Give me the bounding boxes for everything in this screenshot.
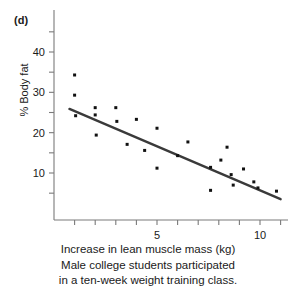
fit-line [69,109,280,199]
data-point [156,167,159,170]
data-point [74,114,77,117]
y-tick-label: 10 [33,167,45,179]
data-point [252,180,255,183]
data-point [73,73,76,76]
x-axis-label: Increase in lean muscle mass (kg) [0,243,296,255]
data-point [186,140,189,143]
data-point [176,154,179,157]
data-point [232,184,235,187]
data-point [115,120,118,123]
data-point [73,94,76,97]
data-points [73,73,278,192]
axes [49,10,288,225]
data-point [275,190,278,193]
x-tick-label: 10 [254,229,266,241]
data-point [230,173,233,176]
data-point [94,113,97,116]
caption-line-1: Male college students participated [0,258,296,273]
data-point [209,166,212,169]
y-tick-label: 30 [33,86,45,98]
data-point [114,106,117,109]
data-point [209,189,212,192]
data-point [226,146,229,149]
data-point [256,186,259,189]
data-point [219,159,222,162]
data-point [126,143,129,146]
scatter-figure: (d) % Body fat 10203040510 Increase in l… [0,0,296,288]
caption-line-2: in a ten-week weight training class. [0,273,296,288]
data-point [143,149,146,152]
data-point [242,167,245,170]
regression-line [69,109,280,199]
x-tick-label: 5 [154,229,160,241]
data-point [95,134,98,137]
figure-caption: Male college students participated in a … [0,258,296,288]
y-tick-label: 40 [33,46,45,58]
data-point [156,127,159,130]
data-point [135,118,138,121]
y-tick-label: 20 [33,127,45,139]
data-point [94,106,97,109]
